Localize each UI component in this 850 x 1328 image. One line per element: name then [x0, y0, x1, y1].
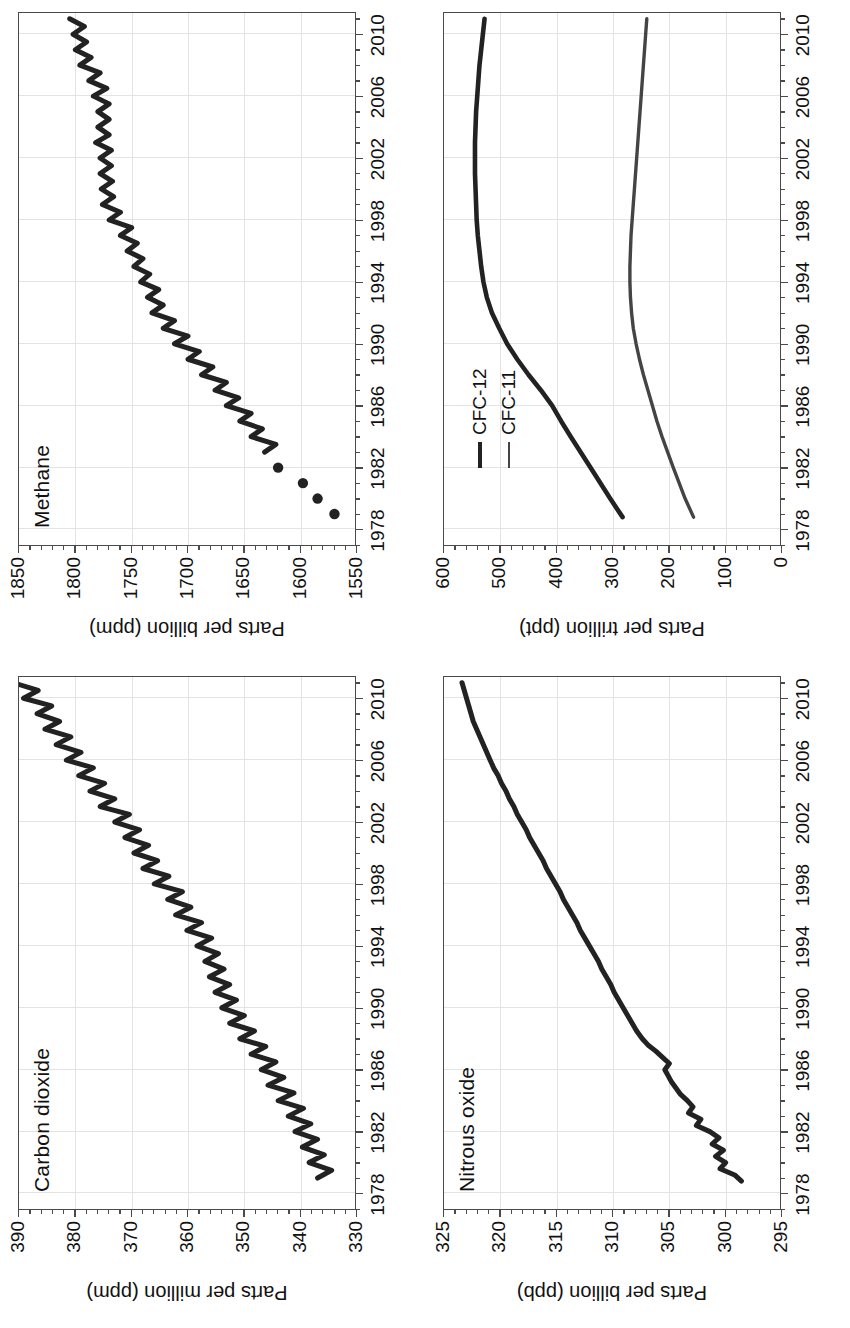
legend-label: CFC-12 — [469, 368, 491, 435]
x-tick-minor — [781, 127, 785, 128]
x-tick-minor — [356, 204, 360, 205]
y-tick-minor — [277, 546, 278, 550]
x-tick-minor — [781, 436, 785, 437]
x-tick-minor — [356, 483, 360, 484]
x-tick-minor — [356, 359, 360, 360]
x-tick-label: 1978 — [792, 1173, 814, 1215]
y-tick-minor — [288, 1210, 289, 1214]
y-tick-minor — [635, 1210, 636, 1214]
series-layer-n2o — [444, 676, 781, 1209]
y-axis-title-cfc: Parts per trillion (ppt) — [519, 617, 705, 640]
x-tick-major — [356, 34, 363, 35]
series-layer-co2 — [19, 676, 356, 1209]
y-tick-minor — [334, 1210, 335, 1214]
y-tick-label: 1850 — [7, 557, 29, 627]
x-tick-minor — [781, 791, 785, 792]
y-tick-major — [781, 546, 782, 553]
y-tick-label: 325 — [432, 1221, 454, 1291]
x-tick-minor — [781, 868, 785, 869]
y-tick-label: 1550 — [345, 557, 367, 627]
x-tick-major — [356, 282, 363, 283]
panel-nitrous-oxide: Nitrous oxide 19781982198619901994199820… — [425, 664, 850, 1328]
x-tick-label: 1994 — [367, 926, 389, 968]
legend-label: CFC-11 — [498, 370, 520, 435]
y-tick-major — [18, 1210, 19, 1217]
x-tick-minor — [781, 1085, 785, 1086]
y-tick-minor — [691, 1210, 692, 1214]
x-tick-label: 2002 — [792, 802, 814, 844]
x-tick-minor — [781, 1162, 785, 1163]
y-tick-minor — [165, 1210, 166, 1214]
x-tick-minor — [356, 1178, 360, 1179]
x-tick-minor — [781, 111, 785, 112]
y-tick-minor — [691, 546, 692, 550]
x-tick-major — [356, 1008, 363, 1009]
y-tick-minor — [322, 546, 323, 550]
x-tick-minor — [781, 961, 785, 962]
x-tick-minor — [356, 1054, 360, 1055]
panel-title-methane: Methane — [30, 445, 54, 528]
legend-swatch-icon — [508, 442, 511, 468]
x-tick-minor — [781, 204, 785, 205]
x-tick-minor — [781, 729, 785, 730]
y-tick-minor — [97, 1210, 98, 1214]
x-tick-major — [356, 1131, 363, 1132]
panel-title-carbon-dioxide: Carbon dioxide — [30, 1048, 54, 1192]
plot-area-carbon-dioxide — [18, 676, 356, 1210]
x-tick-major — [356, 467, 363, 468]
x-tick-label: 2002 — [792, 138, 814, 180]
x-tick-major — [781, 822, 788, 823]
figure-rotation-wrapper: Carbon dioxide 1978198219861990199419982… — [0, 0, 850, 1328]
y-tick-minor — [713, 546, 714, 550]
y-tick-minor — [198, 1210, 199, 1214]
x-tick-minor — [356, 173, 360, 174]
x-tick-major — [781, 158, 788, 159]
x-tick-label: 1986 — [792, 1050, 814, 1092]
x-tick-minor — [781, 266, 785, 267]
x-tick-label: 1986 — [367, 1050, 389, 1092]
x-tick-minor — [356, 961, 360, 962]
y-tick-minor — [511, 546, 512, 550]
x-tick-major — [781, 1193, 788, 1194]
y-tick-minor — [623, 546, 624, 550]
x-tick-label: 1982 — [367, 1111, 389, 1153]
legend-swatch-icon — [478, 442, 482, 468]
y-tick-major — [131, 1210, 132, 1217]
x-tick-major — [781, 698, 788, 699]
y-tick-major — [443, 546, 444, 553]
x-tick-minor — [356, 297, 360, 298]
y-tick-major — [300, 546, 301, 553]
y-tick-minor — [176, 546, 177, 550]
y-tick-minor — [255, 1210, 256, 1214]
y-tick-minor — [345, 1210, 346, 1214]
y-tick-minor — [454, 546, 455, 550]
x-tick-major — [356, 760, 363, 761]
y-tick-minor — [176, 1210, 177, 1214]
legend-item-cfc-11: CFC-11 — [498, 368, 520, 468]
y-tick-minor — [770, 1210, 771, 1214]
x-tick-major — [356, 405, 363, 406]
y-tick-major — [668, 1210, 669, 1217]
y-tick-minor — [52, 1210, 53, 1214]
y-axis-title-co2: Parts per million (ppm) — [86, 1281, 287, 1304]
panel-title-nitrous-oxide: Nitrous oxide — [455, 1067, 479, 1192]
x-tick-label: 1982 — [367, 447, 389, 489]
y-tick-label: 300 — [714, 1221, 736, 1291]
x-tick-major — [781, 1008, 788, 1009]
x-tick-minor — [781, 374, 785, 375]
y-tick-minor — [108, 1210, 109, 1214]
data-point — [273, 462, 283, 472]
y-tick-minor — [142, 1210, 143, 1214]
x-tick-major — [781, 946, 788, 947]
x-tick-minor — [356, 235, 360, 236]
x-tick-minor — [356, 313, 360, 314]
y-tick-major — [131, 546, 132, 553]
y-tick-major — [781, 1210, 782, 1217]
x-tick-minor — [781, 713, 785, 714]
x-tick-minor — [781, 1116, 785, 1117]
x-tick-minor — [356, 1100, 360, 1101]
y-tick-minor — [165, 546, 166, 550]
y-tick-minor — [578, 1210, 579, 1214]
x-tick-major — [781, 1131, 788, 1132]
x-tick-label: 1998 — [792, 864, 814, 906]
